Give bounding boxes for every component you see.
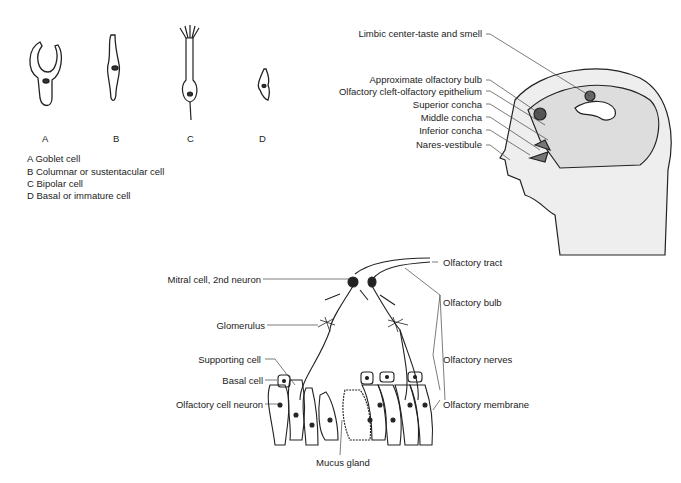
label-olfactory-cell-neuron: Olfactory cell neuron [176, 399, 263, 410]
label-olfactory-tract: Olfactory tract [443, 257, 502, 268]
label-basal-cell: Basal cell [222, 375, 263, 386]
legend-goblet: A Goblet cell [27, 153, 80, 164]
label-limbic-center: Limbic center-taste and smell [358, 28, 482, 39]
cell-letter-d: D [259, 133, 266, 144]
legend-bipolar: C Bipolar cell [27, 178, 83, 189]
diagram-drawing [0, 0, 681, 483]
epithelium-drawing [268, 258, 432, 445]
label-olfactory-bulb: Olfactory bulb [443, 297, 502, 308]
head-drawing [500, 69, 671, 255]
label-olfactory-cleft: Olfactory cleft-olfactory epithelium [339, 86, 482, 97]
cell-letter-b: B [113, 133, 119, 144]
label-glomerulus: Glomerulus [216, 320, 265, 331]
label-inferior-concha: Inferior concha [419, 125, 482, 136]
label-supporting-cell: Supporting cell [198, 354, 261, 365]
label-superior-concha: Superior concha [413, 99, 482, 110]
label-middle-concha: Middle concha [421, 112, 482, 123]
goblet-cell-drawing [30, 42, 61, 106]
bipolar-cell-drawing [180, 25, 199, 120]
label-mitral-cell: Mitral cell, 2nd neuron [168, 274, 261, 285]
cell-letter-c: C [187, 133, 194, 144]
label-olfactory-nerves: Olfactory nerves [443, 354, 512, 365]
label-olfactory-membrane: Olfactory membrane [443, 399, 529, 410]
legend-basal: D Basal or immature cell [27, 190, 130, 201]
label-olfactory-bulb-approx: Approximate olfactory bulb [370, 74, 482, 85]
label-mucus-gland: Mucus gland [316, 457, 370, 468]
basal-cell-drawing [258, 69, 269, 100]
columnar-cell-drawing [107, 35, 119, 100]
legend-columnar: B Columnar or sustentacular cell [27, 166, 164, 177]
label-nares-vestibule: Nares-vestibule [416, 139, 482, 150]
cell-letter-a: A [42, 133, 48, 144]
